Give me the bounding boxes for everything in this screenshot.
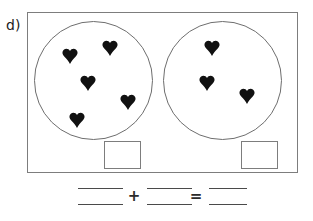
blank-rule-lower <box>209 204 247 205</box>
blank-rule-lower <box>147 204 192 205</box>
group-circle-right <box>163 21 282 140</box>
part-label: d) <box>6 18 20 32</box>
blank-rule-upper <box>209 188 247 189</box>
group-count-box-left[interactable] <box>104 141 141 169</box>
equals-sign: = <box>188 187 204 205</box>
equation-row: + = <box>78 185 243 211</box>
plus-sign: + <box>126 187 142 205</box>
equation-blank-addend-1[interactable] <box>78 185 123 207</box>
group-circle-left <box>34 21 153 140</box>
blank-rule-lower <box>78 204 123 205</box>
equation-blank-sum[interactable] <box>209 185 247 207</box>
worksheet-problem: d) + = <box>0 0 313 221</box>
group-count-box-right[interactable] <box>241 141 278 169</box>
equation-blank-addend-2[interactable] <box>147 185 192 207</box>
blank-rule-upper <box>78 188 123 189</box>
blank-rule-upper <box>147 188 192 189</box>
